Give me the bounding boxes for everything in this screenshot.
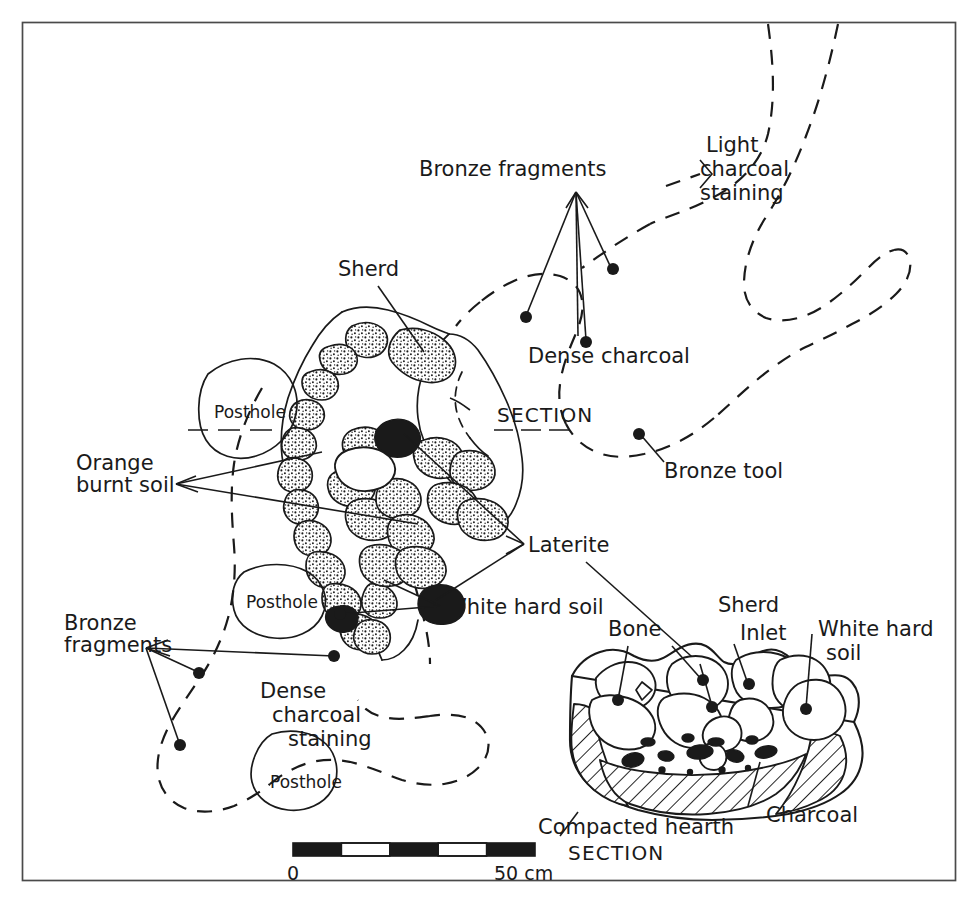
label-laterite: Laterite [528,533,609,557]
inlet-dot [743,678,755,690]
light-charcoal-staining-outline [456,24,910,457]
label-charcoal: Charcoal [766,803,858,827]
scale-segment [438,843,486,856]
label-orange-burnt-soil-line2: burnt soil [76,473,175,497]
label-scale-end: 50 cm [494,862,553,884]
label-light-charcoal-line2: charcoal [700,157,789,181]
bronze-fragment-dot [520,311,532,323]
site-plan-figure: Light charcoal staining Bronze fragments… [0,0,972,914]
label-inlet: Inlet [740,621,787,645]
bronze-tool-dot [633,428,645,440]
scale-segment [293,843,341,856]
white-hard-soil-dot [334,608,346,620]
label-bronze-fragments-left-line1: Bronze [64,611,137,635]
label-bronze-tool: Bronze tool [664,459,783,483]
label-posthole-2: Posthole [246,592,318,612]
bone-dot [612,694,624,706]
label-sherd-section: Sherd [718,593,779,617]
bronze-fragments-top-leaders [520,192,619,348]
label-bronze-fragments-left-line2: fragments [64,633,172,657]
scale-bar: 0 50 cm [287,843,553,884]
section-marker-plan: SECTION [450,398,594,430]
bronze-fragment-dot [607,263,619,275]
label-white-hard-soil-plan: White hard soil [446,595,604,619]
label-dense-charcoal-staining-line3: staining [288,727,372,751]
label-bronze-fragments-top: Bronze fragments [419,157,606,181]
label-posthole-3: Posthole [270,772,342,792]
label-dense-charcoal-staining-line1: Dense [260,679,326,703]
laterite-dot-section [706,701,718,713]
scale-segment [487,843,535,856]
label-compacted-hearth: Compacted hearth [538,815,734,839]
white-hard-soil-block [783,680,846,740]
label-dense-charcoal: Dense charcoal [528,344,690,368]
label-scale-start: 0 [287,862,299,884]
label-bone: Bone [608,617,661,641]
label-dense-charcoal-staining-line2: charcoal [272,703,361,727]
label-orange-burnt-soil-line1: Orange [76,451,154,475]
white-hard-soil-dot-section [800,703,812,715]
bronze-fragment-dot [174,739,186,751]
label-posthole-1: Posthole [214,402,286,422]
scale-segment [390,843,438,856]
central-void [335,447,395,491]
label-white-hard-soil-section-line1: White hard [818,617,934,641]
bronze-fragment-dot [328,650,340,662]
bronze-tool-marker [633,428,664,462]
label-light-charcoal-line1: Light [706,133,758,157]
figure-page: Light charcoal staining Bronze fragments… [0,0,972,914]
bronze-fragment-dot [193,667,205,679]
label-light-charcoal-line3: staining [700,181,784,205]
label-sherd-top: Sherd [338,257,399,281]
label-section-caption: SECTION [568,841,665,865]
label-white-hard-soil-section-line2: soil [826,641,861,665]
scale-segment [341,843,389,856]
